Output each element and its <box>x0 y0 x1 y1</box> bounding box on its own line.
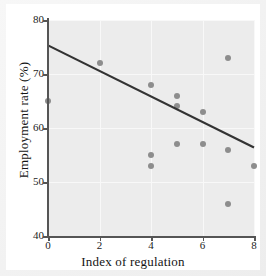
data-point <box>148 163 154 169</box>
y-tick-mark <box>43 74 48 76</box>
x-axis-label: Index of regulation <box>6 254 260 270</box>
gridline-horizontal <box>48 74 254 75</box>
gridline-horizontal <box>48 128 254 129</box>
x-tick-mark <box>48 236 50 241</box>
gridline-horizontal <box>48 20 254 21</box>
data-point <box>225 147 231 153</box>
chart-canvas: 4050607080 02468 Index of regulation Emp… <box>6 4 260 270</box>
data-point <box>174 93 180 99</box>
data-point <box>148 152 154 158</box>
data-point <box>97 60 103 66</box>
y-tick-mark <box>43 128 48 130</box>
x-tick-mark <box>203 236 205 241</box>
data-point <box>251 163 257 169</box>
data-point <box>200 109 206 115</box>
x-tick-label: 4 <box>141 240 161 251</box>
x-tick-label: 8 <box>244 240 264 251</box>
x-tick-label: 0 <box>38 240 58 251</box>
x-tick-mark <box>151 236 153 241</box>
x-tick-mark <box>100 236 102 241</box>
data-point <box>148 82 154 88</box>
x-tick-label: 6 <box>193 240 213 251</box>
figure-frame: 4050607080 02468 Index of regulation Emp… <box>0 0 266 276</box>
data-point <box>200 141 206 147</box>
x-tick-label: 2 <box>90 240 110 251</box>
y-tick-mark <box>43 20 48 22</box>
y-tick-mark <box>43 182 48 184</box>
gridline-vertical <box>254 20 255 236</box>
data-point <box>174 141 180 147</box>
data-point <box>225 201 231 207</box>
y-axis-label: Employment rate (%) <box>16 10 32 230</box>
x-tick-mark <box>254 236 256 241</box>
gridline-horizontal <box>48 182 254 183</box>
